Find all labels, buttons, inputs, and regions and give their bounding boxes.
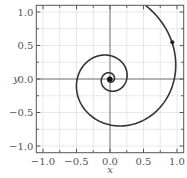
spiral-curve: [76, 6, 175, 126]
x-tick-label: 1.0: [169, 156, 185, 167]
spiral-chart: −1.0−0.50.00.51.0 1.00.50.0−0.5−1.0 x y: [0, 0, 187, 178]
x-tick-label: 0.5: [136, 156, 152, 167]
y-axis-label: y: [12, 73, 19, 84]
x-tick-label: −1.0: [31, 156, 55, 167]
y-tick-label: −1.0: [9, 141, 33, 152]
x-tick-label: −0.5: [64, 156, 88, 167]
data-markers: [107, 40, 174, 81]
marker-point: [170, 40, 174, 44]
x-axis-label: x: [107, 164, 113, 175]
center-point: [107, 76, 112, 81]
y-tick-label: 0.5: [17, 40, 33, 51]
y-tick-label: −0.5: [9, 107, 33, 118]
y-tick-label: 1.0: [17, 7, 33, 18]
y-tick-label: 0.0: [17, 74, 33, 85]
